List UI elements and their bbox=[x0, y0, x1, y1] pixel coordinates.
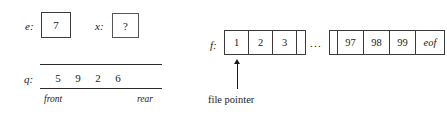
queue-cell-0: 5 bbox=[48, 72, 68, 84]
queue-top-rule bbox=[40, 64, 162, 65]
queue-cell-2: 2 bbox=[88, 72, 108, 84]
diagram-canvas: e: 7 x: ? q: 5 9 2 6 front rear f: 1 2 3… bbox=[0, 0, 447, 119]
variable-e-value: 7 bbox=[53, 19, 59, 31]
queue-cell-3: 6 bbox=[108, 72, 128, 84]
file-cell-eof: eof bbox=[416, 31, 444, 54]
file-cell-2: 2 bbox=[249, 31, 273, 54]
file-pointer-arrow bbox=[233, 59, 242, 89]
file-cell-partial-tail bbox=[330, 31, 338, 54]
queue-values: 5 9 2 6 bbox=[48, 72, 158, 84]
queue-bottom-rule bbox=[40, 88, 162, 89]
variable-x-label: x: bbox=[95, 21, 104, 32]
variable-e-box: 7 bbox=[41, 12, 71, 38]
file-label: f: bbox=[210, 40, 217, 51]
file-cell-3: 3 bbox=[273, 31, 297, 54]
queue-rear-label: rear bbox=[137, 94, 153, 104]
queue-front-label: front bbox=[44, 94, 62, 104]
file-head-cells: 1 2 3 bbox=[224, 30, 306, 55]
variable-e-label: e: bbox=[25, 21, 34, 32]
variable-x-value: ? bbox=[123, 20, 128, 32]
file-cell-99: 99 bbox=[390, 31, 416, 54]
file-cell-partial-head bbox=[297, 31, 305, 54]
file-pointer-caption: file pointer bbox=[208, 94, 254, 105]
queue-label: q: bbox=[24, 74, 33, 85]
arrow-shaft bbox=[237, 63, 238, 89]
file-cell-97: 97 bbox=[338, 31, 364, 54]
file-tail-cells: 97 98 99 eof bbox=[329, 30, 445, 55]
file-cell-1: 1 bbox=[225, 31, 249, 54]
variable-x-box: ? bbox=[112, 13, 139, 38]
queue-cell-1: 9 bbox=[68, 72, 88, 84]
file-cell-98: 98 bbox=[364, 31, 390, 54]
file-ellipsis: ... bbox=[305, 30, 327, 55]
